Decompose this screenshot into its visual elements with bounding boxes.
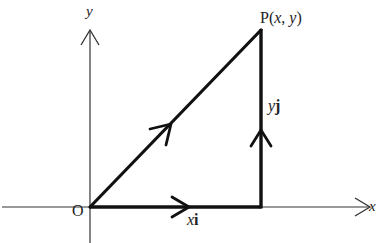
- vector-yj-label: yj: [268, 98, 280, 114]
- vector-yj-unit: j: [275, 97, 280, 114]
- diagram-canvas: [0, 0, 389, 243]
- origin-label: O: [72, 203, 84, 219]
- vector-xi-label: xi: [187, 212, 199, 228]
- vector-op-line: [90, 30, 261, 207]
- point-p-label: P(x, y): [260, 10, 302, 26]
- point-p-prefix: P(: [260, 9, 274, 26]
- x-axis-label: x: [369, 199, 376, 214]
- point-p-suffix: ): [296, 9, 301, 26]
- vector-xi-unit: i: [194, 211, 198, 228]
- y-axis-label: y: [86, 4, 93, 19]
